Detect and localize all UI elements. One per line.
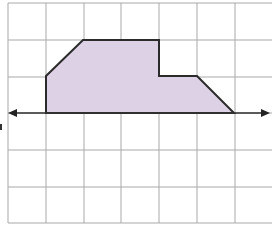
grid-diagram — [0, 0, 272, 227]
cut-off-label — [0, 124, 2, 130]
arrow-right-icon — [261, 109, 270, 117]
arrow-left-icon — [8, 109, 17, 117]
